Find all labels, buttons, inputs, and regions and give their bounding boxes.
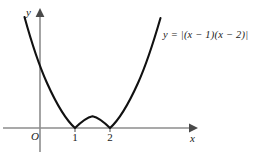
origin-label: O [31,131,39,142]
math-figure: y x O 1 2 y = |(x − 1)(x − 2)| [0,0,257,154]
function-curve [25,17,161,128]
x-axis-label: x [190,133,195,144]
y-axis-arrow-icon [36,8,45,17]
y-axis-label: y [26,7,31,18]
equation-annotation: y = |(x − 1)(x − 2)| [163,30,248,41]
x-tick-label-2: 2 [104,131,116,143]
x-tick-label-1: 1 [69,131,81,143]
